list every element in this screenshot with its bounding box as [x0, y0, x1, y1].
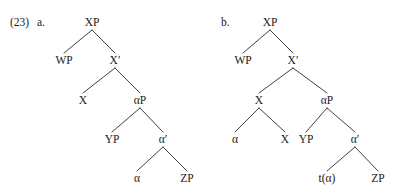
tree-node-b-alpha: α [232, 133, 238, 145]
tree-node-a-zp: ZP [180, 172, 193, 184]
tree-branch-a-alphabar-to-a-alpha [137, 147, 163, 171]
tree-branch-a-alphap-to-a-alphabar [140, 108, 163, 132]
tree-node-a-xbar: X′ [110, 54, 121, 66]
tree-branch-a-alphap-to-a-yp [112, 108, 140, 132]
tree-node-b-trace: t(α) [319, 172, 336, 185]
tree-branch-a-xp-to-a-wp [64, 30, 92, 53]
tree-branch-b-alphabar-to-b-zp [355, 147, 378, 171]
example-number: (23) [10, 16, 29, 29]
tree-node-a-alphap: αP [134, 94, 146, 106]
syntax-tree-figure: XPWPX′XαPYPα′αZPa.XPWPX′XαPαXYPα′t(α)ZPb… [0, 0, 394, 196]
tree-node-b-alphap: αP [321, 94, 333, 106]
tree-branch-a-xbar-to-a-alphap [115, 68, 140, 93]
tree-node-b-x: X [255, 94, 264, 106]
tree-node-b-zp: ZP [371, 172, 384, 184]
tree-branch-a-xbar-to-a-x [83, 68, 115, 93]
tree-node-b-wp: WP [234, 54, 251, 66]
tree-branch-b-alphabar-to-b-trace [327, 147, 355, 171]
tree-node-b-xbar: X′ [288, 54, 299, 66]
tree-node-a-alpha: α [134, 172, 140, 184]
tree-branch-b-alphap-to-b-yp [306, 108, 327, 132]
tree-branch-b-xbar-to-b-x [259, 68, 293, 93]
tree-branch-a-xp-to-a-xbar [92, 30, 115, 53]
tree-node-labels-layer: XPWPX′XαPYPα′αZPa.XPWPX′XαPαXYPα′t(α)ZPb… [37, 16, 385, 185]
tree-branch-b-x-to-b-alpha [235, 108, 259, 132]
tree-node-a-wp: WP [55, 54, 72, 66]
tree-branch-b-x-to-b-x2 [259, 108, 285, 132]
tree-branch-b-alphap-to-b-alphabar [327, 108, 355, 132]
tree-node-b-alphabar: α′ [351, 133, 360, 145]
tree-node-a-yp: YP [105, 133, 120, 145]
tree-node-b-x2: X [281, 133, 290, 145]
subfigure-label-a: a. [37, 16, 45, 28]
subfigure-label-b: b. [221, 16, 230, 28]
tree-node-a-x: X [79, 94, 88, 106]
tree-branch-b-xp-to-b-xbar [270, 30, 293, 53]
tree-node-a-xp: XP [85, 16, 100, 28]
tree-diagram-canvas: XPWPX′XαPYPα′αZPa.XPWPX′XαPαXYPα′t(α)ZPb… [0, 0, 394, 196]
tree-branch-b-xbar-to-b-alphap [293, 68, 327, 93]
tree-node-b-yp: YP [299, 133, 314, 145]
tree-branch-a-alphabar-to-a-zp [163, 147, 187, 171]
tree-branch-b-xp-to-b-wp [243, 30, 270, 53]
tree-node-a-alphabar: α′ [159, 133, 168, 145]
tree-node-b-xp: XP [263, 16, 278, 28]
